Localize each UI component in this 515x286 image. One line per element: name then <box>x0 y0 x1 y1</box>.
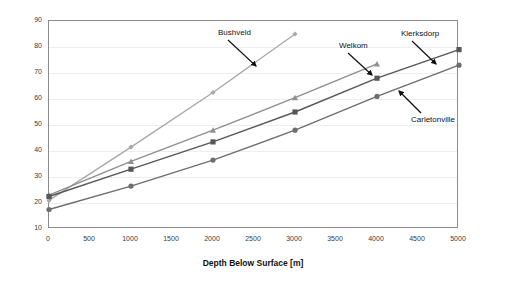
annotation-arrow <box>348 53 372 75</box>
series-label-welkom: Welkom <box>339 41 368 50</box>
series-label-klerksdorp: Klerksdorp <box>401 29 439 38</box>
annotation-arrows <box>0 0 515 286</box>
temperature-depth-chart: Temperature [°C] 102030405060708090 0500… <box>0 0 515 286</box>
series-label-carletonville: Carletonville <box>411 115 455 124</box>
annotation-arrow <box>412 41 436 64</box>
series-label-bushveld: Bushveld <box>218 28 251 37</box>
annotation-arrow <box>399 91 421 113</box>
x-axis-title: Depth Below Surface [m] <box>48 258 458 268</box>
annotation-arrow <box>228 40 256 66</box>
